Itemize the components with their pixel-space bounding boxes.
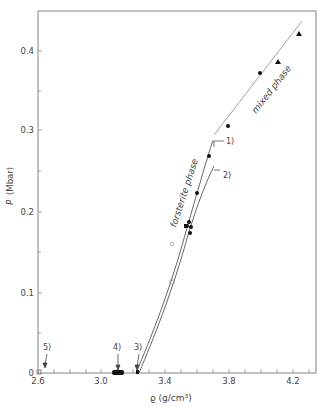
svg-text:(Mbar): (Mbar)	[5, 167, 15, 195]
x-axis-ticks	[54, 369, 309, 373]
annotations: 1) 2) 3) 4) 5)	[43, 137, 234, 352]
svg-text:4.2: 4.2	[286, 376, 300, 386]
plot-frame	[38, 11, 316, 373]
mixed-phase-line	[214, 21, 302, 135]
svg-text:3.8: 3.8	[222, 376, 236, 386]
annotation-arrows	[43, 354, 139, 370]
chart: 0 0.1 0.2 0.3 0.4 P (Mbar) 2.6 3.0 3.4 3…	[0, 0, 326, 407]
y-tick-0.4: 0.4	[20, 46, 34, 56]
mixed-phase-label: mixed phase	[250, 63, 294, 115]
y-tick-0.1: 0.1	[20, 288, 34, 298]
data-points	[184, 31, 302, 235]
x-axis-title: ϱ (g/cm³)	[150, 393, 192, 403]
curve-2	[139, 166, 214, 373]
y-tick-0.2: 0.2	[20, 207, 34, 217]
y-axis-labels: 0 0.1 0.2 0.3 0.4	[20, 46, 34, 378]
label-5: 5)	[43, 343, 51, 352]
label-4: 4)	[113, 343, 121, 352]
svg-text:2.6: 2.6	[31, 376, 45, 386]
y-axis-title: P (Mbar)	[5, 167, 15, 205]
x-axis-labels: 2.6 3.0 3.4 3.8 4.2	[31, 376, 300, 386]
svg-text:3.4: 3.4	[158, 376, 172, 386]
svg-text:P: P	[5, 199, 15, 205]
y-tick-0.3: 0.3	[20, 125, 34, 135]
label-2: 2)	[223, 171, 231, 180]
svg-text:3.0: 3.0	[94, 376, 108, 386]
label-3: 3)	[134, 343, 142, 352]
label-1: 1)	[226, 137, 234, 146]
y-axis-ticks	[38, 51, 42, 333]
curve-1	[136, 141, 213, 373]
axis-points	[112, 370, 139, 375]
